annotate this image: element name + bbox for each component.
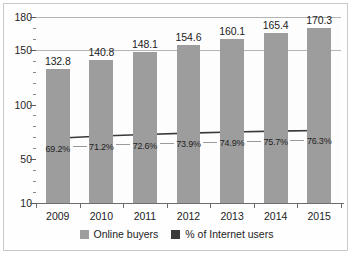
bar: [264, 33, 288, 203]
gridline-stub: [160, 143, 174, 144]
gridline-stub: [73, 146, 87, 147]
bar-value-label: 154.6: [176, 31, 202, 43]
chart-container: 1801501005010 20092010201120122013201420…: [0, 0, 353, 256]
legend-item-online-buyers[interactable]: Online buyers: [80, 228, 159, 240]
y-axis-minor-tick: [33, 181, 36, 182]
bar-value-label: 170.3: [306, 14, 332, 26]
y-axis-tick-label: 180: [2, 11, 32, 23]
x-axis-tick: [254, 204, 255, 208]
line-value-label: 71.2%: [89, 142, 114, 152]
bar: [89, 60, 113, 203]
y-axis-minor-tick: [33, 61, 36, 62]
line-value-label: 76.3%: [307, 136, 332, 146]
x-axis-tick-label: 2010: [90, 210, 113, 222]
y-axis-major-tick: [30, 50, 36, 51]
y-axis-minor-tick: [33, 148, 36, 149]
bar-value-label: 148.1: [132, 38, 158, 50]
x-axis-tick-label: 2009: [46, 210, 69, 222]
line-value-label: 74.9%: [220, 138, 245, 148]
y-axis-major-tick: [30, 17, 36, 18]
bar: [220, 39, 244, 203]
y-axis-tick-label: 50: [2, 153, 32, 165]
bar: [133, 52, 157, 203]
y-axis-minor-tick: [33, 170, 36, 171]
bar-value-label: 132.8: [45, 55, 71, 67]
legend-label-internet-users: % of Internet users: [185, 228, 273, 240]
x-axis-tick: [210, 204, 211, 208]
y-axis-minor-tick: [33, 83, 36, 84]
y-axis-tick-label: 100: [2, 99, 32, 111]
y-axis-minor-tick: [33, 39, 36, 40]
legend-label-online-buyers: Online buyers: [94, 228, 159, 240]
y-axis-minor-tick: [33, 126, 36, 127]
y-axis-major-tick: [30, 159, 36, 160]
gridline-stub: [116, 144, 130, 145]
bar-value-label: 160.1: [219, 25, 245, 37]
x-axis-tick-label: 2011: [134, 210, 157, 222]
x-axis-tick-label: 2012: [177, 210, 200, 222]
legend-item-internet-users[interactable]: % of Internet users: [171, 228, 273, 240]
y-axis-minor-tick: [33, 115, 36, 116]
gridline-stub: [247, 141, 261, 142]
x-axis-tick: [167, 204, 168, 208]
bar: [46, 69, 70, 203]
line-value-label: 69.2%: [46, 144, 71, 154]
x-axis-tick: [297, 204, 298, 208]
bar: [177, 45, 201, 203]
x-axis-tick: [123, 204, 124, 208]
y-axis-minor-tick: [33, 94, 36, 95]
x-axis-tick-label: 2014: [264, 210, 287, 222]
bar: [307, 28, 331, 203]
x-axis-tick-label: 2015: [308, 210, 331, 222]
chart-legend: Online buyers % of Internet users: [0, 228, 353, 240]
legend-swatch-line: [171, 230, 180, 239]
x-axis-tick: [80, 204, 81, 208]
y-axis-tick-label: 150: [2, 44, 32, 56]
gridline: [36, 17, 341, 18]
y-axis-major-tick: [30, 105, 36, 106]
x-axis-tick-label: 2013: [220, 210, 243, 222]
bar-value-label: 140.8: [88, 46, 114, 58]
y-axis-minor-tick: [33, 72, 36, 73]
y-axis-minor-tick: [33, 192, 36, 193]
y-axis-tick-label: 10: [2, 197, 32, 209]
legend-swatch-bar: [80, 230, 89, 239]
line-value-label: 72.6%: [133, 141, 158, 151]
x-axis-tick: [341, 204, 342, 208]
bar-value-label: 165.4: [263, 19, 289, 31]
line-value-label: 73.9%: [176, 139, 201, 149]
y-axis-minor-tick: [33, 137, 36, 138]
x-axis-tick: [36, 204, 37, 208]
gridline-stub: [203, 142, 217, 143]
y-axis-minor-tick: [33, 28, 36, 29]
line-value-label: 75.7%: [263, 137, 288, 147]
gridline-stub: [290, 140, 304, 141]
